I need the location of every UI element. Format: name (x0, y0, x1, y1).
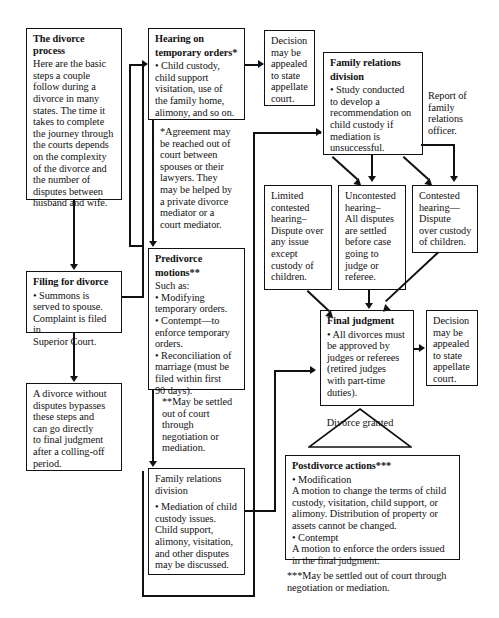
box-heading-2: temporary orders* (155, 47, 239, 59)
text-line: court between (160, 149, 250, 161)
connector-limited-to-final (307, 290, 330, 312)
arrowhead-right (258, 60, 264, 68)
text-line: A motion to change the terms of child (292, 485, 454, 497)
divorce-process-flowchart: The divorce process Here are the basic s… (0, 0, 499, 618)
connector-famrel-to-contested (403, 156, 429, 180)
text-line: judges or referees (327, 352, 408, 364)
note-report-of-family-relations-officer: Report of family relations officer. (428, 90, 488, 136)
text-line: except (271, 248, 326, 260)
text-line: • Contempt—to (155, 315, 239, 327)
text-line: over custody (419, 225, 472, 237)
arrowhead-down (149, 461, 157, 467)
text-line: in the final judgment. (292, 555, 454, 567)
text-line: alimony, visitation, (155, 536, 239, 548)
box-predivorce-motions: Predivorce motions** Such as: • Modifyin… (148, 248, 245, 390)
text-line: appealed (433, 338, 472, 350)
box-heading: Filing for divorce (33, 276, 116, 288)
text-line: All disputes (345, 213, 400, 225)
text-line: spouses or their (160, 161, 250, 173)
text-line: disputes bypasses (33, 400, 116, 412)
text-line: child support (155, 72, 239, 84)
box-filing-for-divorce: Filing for divorce • Summons is served t… (26, 271, 122, 333)
text-line: with part-time (327, 375, 408, 387)
box-postdivorce-actions: Postdivorce actions*** • Modification A … (285, 455, 460, 560)
arrowhead-down (365, 303, 373, 309)
text-line: Limited (271, 190, 326, 202)
text-line: Report of (428, 90, 488, 102)
text-line: orders. (155, 338, 239, 350)
text-line: appealed (271, 58, 309, 70)
arrowhead-down (149, 241, 157, 247)
text-line: the family home, (155, 95, 239, 107)
text-line: may be (433, 327, 472, 339)
text-line: may be (271, 47, 309, 59)
text-line: appellate (433, 361, 472, 373)
box-family-relations-division-mediation: Family relations division • Mediation of… (148, 468, 245, 575)
text-line: Decision (433, 315, 472, 327)
text-line: are settled (345, 225, 400, 237)
text-line: negotiation or (162, 431, 250, 443)
text-line: court. (271, 93, 309, 105)
text-line: marriage (must be (155, 361, 239, 373)
arrowhead-down (70, 264, 78, 270)
note-postdivorce-footnote: ***May be settled out of court through n… (287, 570, 487, 593)
connector-hearing-to-predivorce (152, 120, 154, 242)
text-line: unsuccessful. (330, 142, 417, 154)
box-contested-hearing: Contested hearing— Dispute over custody … (412, 185, 478, 253)
text-line: after a colling-off (33, 446, 116, 458)
text-line: divorce in many (33, 93, 116, 105)
text-line: states. The time it (33, 105, 116, 117)
text-line: be approved by (327, 340, 408, 352)
text-line: officer. (428, 125, 488, 137)
text-line: these steps and (33, 411, 116, 423)
connector-famrel-to-limited (332, 156, 358, 180)
text-line: Uncontested (345, 190, 400, 202)
text-line: family (428, 102, 488, 114)
text-line: custody issues. (155, 513, 239, 525)
connector-filing-to-bypass (73, 333, 75, 377)
box-heading: Postdivorce actions*** (292, 460, 454, 472)
text-line: alimony, and so on. (155, 107, 239, 119)
text-line: custody, visitation, child support, or (292, 497, 454, 509)
connector-rail-bottom (129, 245, 143, 247)
box-heading: Predivorce (155, 253, 239, 265)
text-line: 90 days). (155, 385, 239, 397)
arrowhead-right (310, 366, 316, 374)
text-line: takes to complete (33, 116, 116, 128)
text-line: mediator or a (160, 207, 250, 219)
text-line: • Study conducted (330, 84, 417, 96)
text-line: through (162, 419, 250, 431)
text-line: • Contempt (292, 532, 454, 544)
text-line: child custody if (330, 119, 417, 131)
text-line: to state (271, 70, 309, 82)
text-line: alimony. Distribution of property or (292, 508, 454, 520)
text-line: of the divorce and (33, 163, 116, 175)
box-heading: Final judgment (327, 315, 408, 327)
box-heading: Hearing on (155, 33, 239, 45)
text-line: disputes between (33, 186, 116, 198)
text-line: may be helped by (160, 184, 250, 196)
text-line: hearing— (419, 202, 472, 214)
connector-hearing-left-rail (129, 64, 131, 246)
text-line: steps a couple (33, 70, 116, 82)
box-divorce-without-disputes: A divorce without disputes bypasses thes… (26, 383, 122, 471)
text-line: • Modifying (155, 292, 239, 304)
text-line: to final judgment (33, 434, 116, 446)
text-line: to state (433, 350, 472, 362)
text-line: on the complexity (33, 151, 116, 163)
text-line: to develop a (330, 96, 417, 108)
box-uncontested-hearing: Uncontested hearing– All disputes are se… (338, 185, 406, 290)
box-the-divorce-process: The divorce process Here are the basic s… (26, 28, 122, 200)
text-line: the journey through (33, 128, 116, 140)
text-line: and other disputes (155, 548, 239, 560)
connector-report-right (421, 144, 455, 146)
connector-uncontested-to-final (368, 290, 370, 304)
label-divorce-granted: Divorce granted (308, 417, 412, 429)
text-line: mediation is (330, 131, 417, 143)
box-heading-2: motions** (155, 267, 239, 279)
text-line: (retired judges (327, 363, 408, 375)
text-line: Divorce (327, 417, 360, 428)
text-line: • Summons is (33, 290, 116, 302)
text-line: the number of (33, 174, 116, 186)
text-line: lawyers. They (160, 172, 250, 184)
